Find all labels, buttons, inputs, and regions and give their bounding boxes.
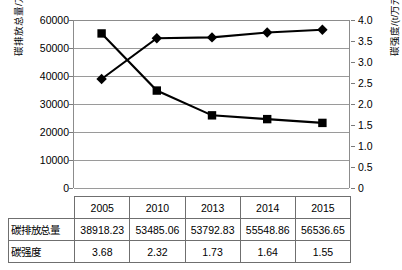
table-cell-intensity-2013: 1.73 bbox=[185, 241, 240, 263]
table-cell-emissions-2013: 53792.83 bbox=[185, 219, 240, 241]
table-cell-emissions-2005: 38918.23 bbox=[75, 219, 130, 241]
table-header-2013: 2013 bbox=[185, 197, 240, 219]
table-cell-intensity-2014: 1.64 bbox=[240, 241, 295, 263]
table-row-label-emissions: 碳排放总量 bbox=[9, 219, 75, 241]
table-cell-emissions-2010: 53485.06 bbox=[130, 219, 185, 241]
table-cell-emissions-2015: 56536.65 bbox=[295, 219, 350, 241]
plot-wrapper: 碳排放总量/万t 碳强度/(t/万元) 60000 50000 40000 30… bbox=[0, 0, 402, 200]
table-cell-intensity-2015: 1.55 bbox=[295, 241, 350, 263]
table-cell-intensity-2010: 2.32 bbox=[130, 241, 185, 263]
data-point-square-2014 bbox=[263, 115, 271, 123]
table-header-2005: 2005 bbox=[75, 197, 130, 219]
data-table: 2005 2010 2013 2014 2015 碳排放总量 38918.23 … bbox=[8, 196, 351, 263]
data-point-diamond-2013 bbox=[207, 32, 217, 42]
table-cell-emissions-2014: 55548.86 bbox=[240, 219, 295, 241]
data-point-square-2013 bbox=[208, 111, 216, 119]
table-row: 碳排放总量 38918.23 53485.06 53792.83 55548.8… bbox=[9, 219, 351, 241]
combo-chart-figure: 碳排放总量/万t 碳强度/(t/万元) 60000 50000 40000 30… bbox=[0, 0, 402, 270]
data-point-square-2010 bbox=[153, 86, 161, 94]
table-header-row: 2005 2010 2013 2014 2015 bbox=[9, 197, 351, 219]
data-point-diamond-2014 bbox=[262, 27, 272, 37]
data-point-square-2005 bbox=[97, 29, 105, 37]
table-header-2015: 2015 bbox=[295, 197, 350, 219]
table-corner-cell bbox=[9, 197, 75, 219]
table-header-2014: 2014 bbox=[240, 197, 295, 219]
table-row: 碳强度 3.68 2.32 1.73 1.64 1.55 bbox=[9, 241, 351, 263]
series-line-2 bbox=[102, 33, 323, 122]
series-layer bbox=[0, 0, 402, 200]
data-point-diamond-2015 bbox=[317, 25, 327, 35]
data-point-square-2015 bbox=[318, 119, 326, 127]
table-header-2010: 2010 bbox=[130, 197, 185, 219]
table-cell-intensity-2005: 3.68 bbox=[75, 241, 130, 263]
table-row-label-intensity: 碳强度 bbox=[9, 241, 75, 263]
